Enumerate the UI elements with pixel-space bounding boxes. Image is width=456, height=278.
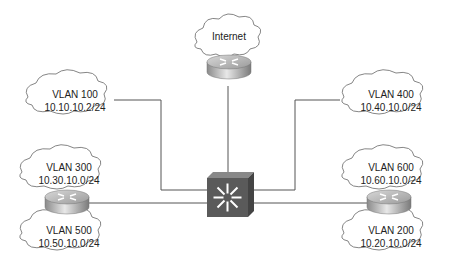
left-router-icon	[45, 190, 89, 214]
vlan-subnet: 10.10.10.2/24	[30, 101, 120, 114]
vlan-name: VLAN 400	[346, 88, 436, 101]
vlan600-cloud: VLAN 600 10.60.10.0/24	[346, 161, 436, 187]
vlan-subnet: 10.50.10.0/24	[24, 237, 114, 250]
vlan-name: VLAN 600	[346, 161, 436, 174]
vlan400-cloud: VLAN 400 10.40.10.0/24	[346, 88, 436, 114]
vlan300-cloud: VLAN 300 10.30.10.0/24	[24, 161, 114, 187]
vlan-name: VLAN 500	[24, 224, 114, 237]
vlan-name: VLAN 300	[24, 161, 114, 174]
vlan-name: VLAN 100	[30, 88, 120, 101]
network-diagram: Internet VLAN 100 10.10.10.2/24 VLAN 400…	[0, 0, 456, 278]
vlan200-cloud: VLAN 200 10.20.10.0/24	[346, 224, 436, 250]
vlan500-cloud: VLAN 500 10.50.10.0/24	[24, 224, 114, 250]
multilayer-switch-icon	[207, 172, 254, 217]
internet-label: Internet	[205, 30, 253, 43]
vlan-subnet: 10.20.10.0/24	[346, 237, 436, 250]
vlan-subnet: 10.40.10.0/24	[346, 101, 436, 114]
vlan100-cloud: VLAN 100 10.10.10.2/24	[30, 88, 120, 114]
vlan-name: VLAN 200	[346, 224, 436, 237]
right-router-icon	[367, 190, 411, 214]
vlan-subnet: 10.60.10.0/24	[346, 174, 436, 187]
internet-router-icon	[207, 55, 251, 79]
vlan-subnet: 10.30.10.0/24	[24, 174, 114, 187]
